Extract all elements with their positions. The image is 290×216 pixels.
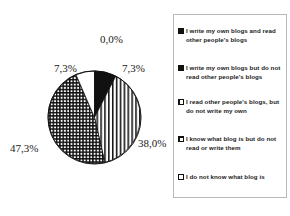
legend-item-know-blog-not-read-write: I know what blog is but do not read or w… (178, 134, 286, 152)
grid-hatch-swatch-icon (178, 136, 184, 142)
legend-item-read-others-not-write: I read other people's blogs, but do not … (178, 97, 286, 115)
pie-value-label-7-3-left: 7,3% (54, 62, 77, 74)
pie-chart-graphic (46, 69, 143, 166)
legend-item-label: I read other people's blogs, but do not … (186, 97, 286, 115)
legend-item-own-blogs-not-read: I write my own blogs but do not read oth… (178, 63, 286, 81)
pie-chart-area: 0,0% 7,3% 38,0% 47,3% 7,3% (0, 0, 173, 216)
legend-item-label: I know what blog is but do not read or w… (186, 134, 286, 152)
pie-value-label-0-0: 0,0% (100, 33, 123, 45)
legend-item-do-not-know-blog: I do not know what blog is (178, 172, 286, 181)
pie-value-label-47-3: 47,3% (10, 142, 38, 154)
legend-item-label: I write my own blogs and read other peop… (186, 26, 286, 44)
legend-item-own-blogs-and-read: I write my own blogs and read other peop… (178, 26, 286, 44)
chart-legend: I write my own blogs and read other peop… (173, 14, 287, 198)
pie-value-label-38-0: 38,0% (138, 137, 166, 149)
blank-swatch-icon (178, 174, 184, 180)
legend-item-label: I write my own blogs but do not read oth… (186, 63, 286, 81)
pie-value-label-7-3-right: 7,3% (122, 62, 145, 74)
light-hatch-swatch-icon (178, 99, 184, 105)
solid-black-swatch-icon (178, 28, 184, 34)
legend-item-label: I do not know what blog is (186, 172, 265, 181)
vertical-stripe-swatch-icon (178, 65, 184, 71)
